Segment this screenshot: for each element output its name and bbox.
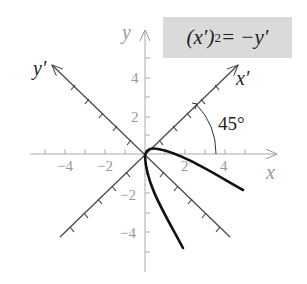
y-axis-label: y: [122, 22, 131, 42]
y-tick-label: 2: [131, 110, 139, 125]
rotated-parabola-diagram: (x′)2 = −y′ y x x′ y′ −4 −2 2 4 4 2 −2 −…: [0, 0, 307, 284]
angle-arc: [192, 103, 216, 154]
x-prime-axis-label: x′: [236, 68, 249, 88]
equation-box: (x′)2 = −y′: [163, 17, 292, 58]
angle-label: 45°: [218, 114, 245, 133]
equation-lhs: (x′): [187, 25, 215, 50]
x-tick-label: 2: [181, 159, 189, 174]
x-tick-label: −2: [97, 159, 113, 174]
y-tick-label: −4: [120, 226, 136, 241]
x-axis-label: x: [266, 162, 275, 182]
x-tick-label: −4: [57, 159, 73, 174]
x-tick-label: 4: [220, 159, 228, 174]
y-prime-axis: [52, 65, 230, 237]
parabola-curve: [145, 149, 243, 248]
y-tick-label: −2: [120, 188, 136, 203]
y-prime-axis-label: y′: [33, 58, 46, 78]
y-tick-label: 4: [131, 71, 139, 86]
x-prime-axis: [60, 65, 238, 237]
equation-rhs: = −y′: [221, 25, 269, 50]
